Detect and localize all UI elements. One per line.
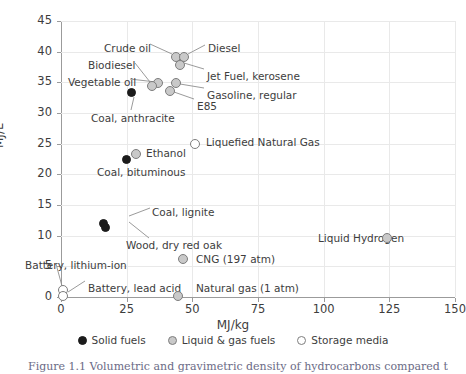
point-label: Crude oil bbox=[104, 43, 151, 54]
legend-item: Solid fuels bbox=[78, 334, 146, 346]
legend-item: Liquid & gas fuels bbox=[168, 334, 276, 346]
gridline-vertical bbox=[455, 21, 456, 297]
point-label: Battery, lead acid bbox=[88, 283, 181, 294]
point-label: E85 bbox=[197, 101, 217, 112]
point-label: Jet Fuel, kerosene bbox=[207, 71, 300, 82]
point-label: Wood, dry red oak bbox=[126, 240, 222, 251]
x-tick-label: 50 bbox=[172, 303, 212, 315]
data-point-marker bbox=[190, 139, 200, 149]
point-label: Coal, bituminous bbox=[97, 167, 186, 178]
legend-marker-icon bbox=[297, 336, 306, 345]
figure-caption: Figure 1.1 Volumetric and gravimetric de… bbox=[28, 360, 448, 374]
point-label: Battery, lithium-ion bbox=[25, 260, 127, 271]
x-tick-label: 0 bbox=[41, 303, 81, 315]
data-point-marker bbox=[165, 86, 175, 96]
y-tick-label: 30 bbox=[28, 107, 52, 118]
point-label: Coal, anthracite bbox=[91, 113, 175, 124]
legend: Solid fuelsLiquid & gas fuelsStorage med… bbox=[0, 334, 466, 346]
data-point-marker bbox=[101, 223, 110, 232]
data-point-marker bbox=[147, 81, 157, 91]
point-label: Biodiesel bbox=[88, 60, 135, 71]
x-tick-label: 100 bbox=[304, 303, 344, 315]
x-axis-title: MJ/kg bbox=[0, 318, 466, 332]
legend-item: Storage media bbox=[297, 334, 388, 346]
legend-marker-icon bbox=[78, 336, 87, 345]
y-tick-label: 15 bbox=[28, 199, 52, 210]
point-label: Diesel bbox=[208, 43, 240, 54]
y-axis-title: MJ/L bbox=[0, 123, 6, 148]
data-point-marker bbox=[382, 233, 392, 243]
legend-label: Solid fuels bbox=[92, 334, 146, 346]
y-tick-label: 10 bbox=[28, 230, 52, 241]
point-label: Gasoline, regular bbox=[207, 90, 297, 101]
y-tick-label: 25 bbox=[28, 138, 52, 149]
data-point-marker bbox=[122, 155, 131, 164]
legend-label: Liquid & gas fuels bbox=[182, 334, 276, 346]
point-label: CNG (197 atm) bbox=[196, 254, 275, 265]
y-tick-label: 45 bbox=[28, 15, 52, 26]
y-tick-label: 40 bbox=[28, 46, 52, 57]
y-tick-label: 35 bbox=[28, 76, 52, 87]
x-tick-label: 150 bbox=[435, 303, 466, 315]
data-point-marker bbox=[173, 291, 183, 301]
x-tick-label: 75 bbox=[238, 303, 278, 315]
point-label: Coal, lignite bbox=[152, 207, 214, 218]
legend-label: Storage media bbox=[311, 334, 388, 346]
legend-marker-icon bbox=[168, 336, 177, 345]
data-point-marker bbox=[175, 60, 185, 70]
x-tick-label: 25 bbox=[107, 303, 147, 315]
x-tick-label: 125 bbox=[369, 303, 409, 315]
y-tick-label: 0 bbox=[28, 291, 52, 302]
point-label: Liquefied Natural Gas bbox=[206, 137, 320, 148]
data-point-marker bbox=[58, 291, 68, 301]
point-label: Natural gas (1 atm) bbox=[196, 283, 299, 294]
point-label: Vegetable oil bbox=[68, 77, 136, 88]
y-tick-label: 20 bbox=[28, 168, 52, 179]
data-point-marker bbox=[131, 149, 141, 159]
point-label: Ethanol bbox=[146, 148, 186, 159]
